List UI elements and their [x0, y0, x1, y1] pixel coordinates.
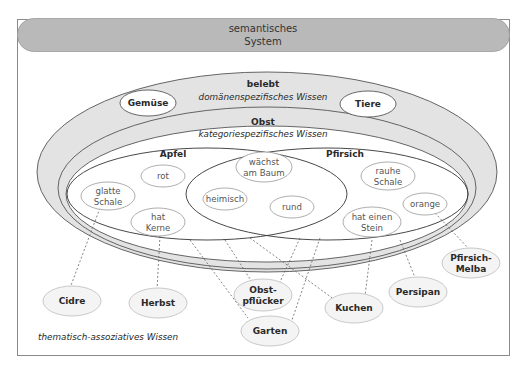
melba-line1: Pfirsich-: [450, 253, 492, 263]
obstpfluecker-line2: pflücker: [242, 296, 284, 306]
persipan-label: Persipan: [396, 287, 441, 297]
semantic-system-diagram: semantisches System belebt domänenspezif…: [0, 0, 526, 370]
kuchen-label: Kuchen: [335, 303, 372, 313]
header-line2: System: [244, 36, 281, 47]
pfirsich-title: Pfirsich: [326, 149, 364, 159]
header-line1: semantisches: [229, 23, 298, 34]
obst-title: Obst: [251, 117, 275, 127]
node-gemuese-label: Gemüse: [128, 98, 169, 108]
baum-line1: wächst: [249, 157, 280, 167]
kerne-line2: Kerne: [146, 223, 171, 233]
obstpfluecker-line1: Obst-: [249, 285, 277, 295]
obst-subtitle: kategoriespezifisches Wissen: [198, 129, 327, 139]
glatte-line2: Schale: [94, 197, 123, 207]
orange-label: orange: [410, 199, 440, 209]
rauhe-line2: Schale: [374, 177, 403, 187]
node-obstpfluecker: [234, 279, 292, 311]
thematic-subtitle: thematisch-assoziatives Wissen: [38, 332, 178, 342]
belebt-title: belebt: [247, 79, 280, 89]
kerne-line1: hat: [151, 212, 166, 222]
herbst-label: Herbst: [141, 298, 176, 308]
cidre-label: Cidre: [59, 296, 86, 306]
rot-label: rot: [157, 171, 170, 181]
rund-label: rund: [282, 202, 302, 212]
glatte-line1: glatte: [95, 186, 120, 196]
apfel-title: Apfel: [160, 149, 187, 159]
garten-label: Garten: [253, 326, 288, 336]
rauhe-line1: rauhe: [376, 166, 401, 176]
node-tiere-label: Tiere: [355, 99, 381, 109]
stein-line2: Stein: [361, 223, 383, 233]
melba-line2: Melba: [456, 264, 487, 274]
belebt-subtitle: domänenspezifisches Wissen: [199, 92, 328, 102]
stein-line1: hat einen: [352, 212, 393, 222]
heimisch-label: heimisch: [206, 194, 245, 204]
baum-line2: am Baum: [243, 168, 284, 178]
